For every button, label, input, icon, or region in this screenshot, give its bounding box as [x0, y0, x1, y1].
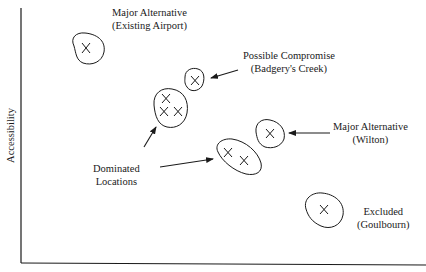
cluster-dominated-a: [154, 89, 188, 128]
arrow-badgerys-creek: [211, 70, 238, 78]
cluster-wilton: [256, 120, 284, 148]
label-existing-airport: Major Alternative (Existing Airport): [112, 6, 187, 32]
x-marker: [160, 107, 168, 116]
label-goulbourn: Excluded (Goulbourn): [357, 205, 410, 231]
x-marker: [240, 156, 248, 165]
cluster-badgerys-creek: [185, 68, 204, 90]
arrow-dominated-b: [160, 159, 213, 167]
cluster-dominated-b: [217, 139, 261, 175]
y-axis-label: Accessibility: [5, 101, 16, 171]
x-marker: [174, 107, 182, 116]
x-marker: [82, 43, 90, 53]
cluster-goulbourn: [305, 193, 343, 228]
cluster-existing-airport: [73, 33, 105, 64]
x-marker: [224, 148, 232, 157]
x-marker: [191, 76, 199, 85]
x-marker: [162, 94, 170, 103]
label-wilton: Major Alternative (Wilton): [333, 120, 408, 146]
x-axis: [21, 263, 426, 265]
x-marker: [320, 205, 328, 214]
x-marker: [266, 129, 274, 138]
label-badgerys-creek: Possible Compromise (Badgery's Creek): [243, 49, 335, 75]
label-dominated-locations: Dominated Locations: [93, 162, 140, 188]
arrow-dominated-a: [144, 127, 156, 147]
